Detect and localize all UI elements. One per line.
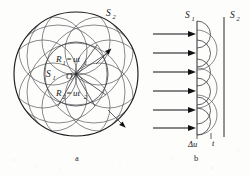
label-s1-sub-panel-b: 1	[192, 15, 195, 22]
label-radius1-subscript: 1	[63, 59, 66, 66]
label-s2-panel-b: S	[230, 10, 235, 20]
label-s1-panel-a: S	[46, 69, 51, 79]
label-radius2-equals: =	[67, 88, 72, 98]
label-radius1-equals: =	[67, 54, 72, 64]
figure-canvas: S 2 S 1 O R 1 = ut 1 R 2 = ut 2 a	[0, 0, 249, 176]
label-s2-panel-a: S	[106, 8, 111, 18]
label-delta-u: Δu	[187, 139, 197, 149]
caption-panel-a: a	[75, 153, 79, 163]
label-radius2-expr: ut	[73, 88, 81, 98]
caption-panel-b: b	[194, 153, 198, 163]
label-s1-panel-b: S	[185, 10, 190, 20]
label-radius1-symbol: R	[55, 54, 62, 64]
label-s1-sub-panel-a: 1	[53, 74, 56, 81]
label-radius1-expr-subscript: 1	[84, 59, 87, 66]
label-radius2-symbol: R	[55, 88, 62, 98]
huygens-figure: S 2 S 1 O R 1 = ut 1 R 2 = ut 2 a	[0, 0, 249, 176]
label-radius1-expr: ut	[73, 54, 81, 64]
label-center-o: O	[66, 71, 73, 81]
center-point-o	[75, 73, 77, 75]
